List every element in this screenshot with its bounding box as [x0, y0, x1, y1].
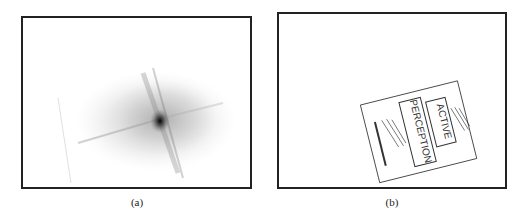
- panel-a-image: [21, 16, 252, 189]
- fourier-spectrum-graphic: [23, 18, 250, 187]
- book-cover-edges-graphic: PERCEPTION ACTIVE: [279, 14, 505, 187]
- panel-b-image: PERCEPTION ACTIVE: [277, 12, 507, 189]
- caption-a: (a): [107, 196, 167, 208]
- caption-b: (b): [362, 196, 422, 208]
